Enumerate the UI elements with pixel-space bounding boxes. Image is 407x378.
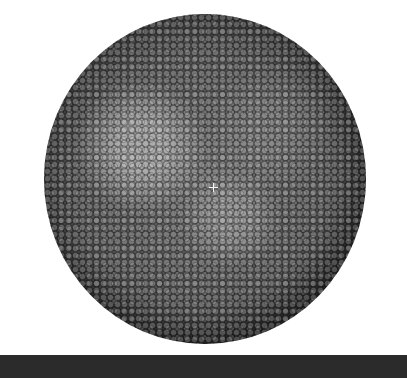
atom-beads [44, 14, 366, 344]
bottom-bar [0, 355, 407, 378]
crosshair-icon [209, 183, 218, 192]
molecule-sphere [44, 14, 366, 344]
3d-viewport[interactable] [0, 0, 407, 355]
